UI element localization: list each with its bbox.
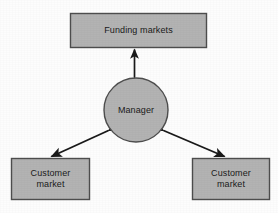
connector-manager-to-customer-right — [164, 131, 225, 157]
diagram-canvas: Funding markets Manager Customer market … — [0, 0, 278, 213]
node-manager[interactable] — [104, 78, 168, 142]
diagram-graphics — [0, 0, 278, 213]
node-funding-markets[interactable] — [71, 14, 207, 48]
connector-manager-to-customer-left — [52, 131, 109, 157]
node-customer-market-left[interactable] — [12, 159, 90, 200]
node-customer-market-right[interactable] — [193, 159, 270, 200]
